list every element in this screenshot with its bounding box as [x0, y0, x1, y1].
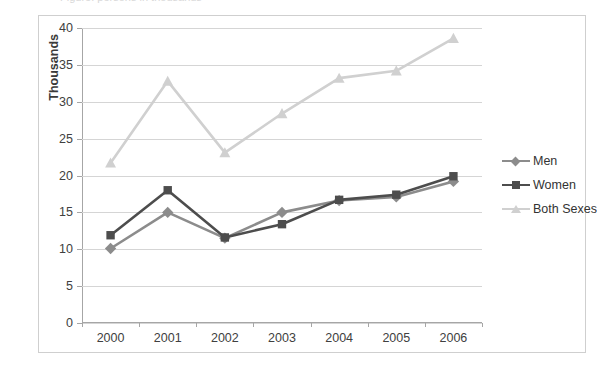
- y-axis-tick-label: 10: [59, 242, 73, 256]
- data-point-marker: [221, 233, 229, 241]
- legend-diamond-icon: [502, 154, 530, 168]
- legend-item-men[interactable]: Men: [502, 149, 580, 173]
- data-point-marker: [162, 76, 173, 86]
- plot-area: 0510152025303540 20002001200220032004200…: [82, 28, 482, 323]
- series-plot: [82, 28, 482, 323]
- x-axis-tick-label: 2003: [268, 331, 296, 345]
- x-axis-tick: [368, 323, 369, 327]
- chart-container: Thousands 0510152025303540 2000200120022…: [38, 15, 586, 353]
- x-axis-tick: [311, 323, 312, 327]
- legend-triangle-icon: [502, 202, 530, 216]
- x-axis-tick: [425, 323, 426, 327]
- legend-label: Women: [533, 178, 576, 192]
- y-axis-tick-label: 30: [59, 95, 73, 109]
- series-men: [105, 176, 459, 254]
- x-axis-tick-label: 2006: [440, 331, 468, 345]
- x-axis-tick-label: 2002: [211, 331, 239, 345]
- y-axis-tick-label: 35: [59, 58, 73, 72]
- legend-marker: [512, 181, 520, 189]
- y-axis-tick-label: 40: [59, 21, 73, 35]
- legend-marker: [511, 156, 521, 166]
- legend-square-icon: [502, 178, 530, 192]
- series-line: [111, 38, 454, 163]
- data-point-marker: [392, 190, 400, 198]
- y-axis-tick-label: 20: [59, 169, 73, 183]
- chart-legend: MenWomenBoth Sexes: [502, 149, 580, 221]
- data-point-marker: [277, 108, 288, 118]
- y-axis-tick-label: 25: [59, 132, 73, 146]
- gridline: [82, 323, 482, 324]
- x-axis-tick: [196, 323, 197, 327]
- y-axis-tick-label: 0: [66, 316, 73, 330]
- x-axis-tick: [139, 323, 140, 327]
- y-axis-tick-label: 15: [59, 205, 73, 219]
- legend-label: Men: [533, 154, 557, 168]
- cropped-top-caption: Figure: persons in thousands: [0, 0, 593, 14]
- data-point-marker: [278, 220, 286, 228]
- legend-marker: [511, 205, 521, 213]
- data-point-marker: [448, 33, 459, 43]
- x-axis-tick-label: 2001: [154, 331, 182, 345]
- data-point-marker: [449, 172, 457, 180]
- x-axis-tick-label: 2004: [325, 331, 353, 345]
- data-point-marker: [276, 207, 287, 218]
- x-axis-tick: [82, 323, 83, 327]
- series-both-sexes: [105, 33, 459, 168]
- data-point-marker: [164, 186, 172, 194]
- legend-label: Both Sexes: [533, 202, 597, 216]
- legend-item-women[interactable]: Women: [502, 173, 580, 197]
- data-point-marker: [335, 196, 343, 204]
- data-point-marker: [106, 231, 114, 239]
- legend-item-both-sexes[interactable]: Both Sexes: [502, 197, 580, 221]
- x-axis-tick: [482, 323, 483, 327]
- cropped-caption-text: Figure: persons in thousands: [60, 0, 202, 3]
- x-axis-tick: [253, 323, 254, 327]
- x-axis-tick-label: 2000: [97, 331, 125, 345]
- y-axis-tick-label: 5: [66, 279, 73, 293]
- x-axis-tick-label: 2005: [382, 331, 410, 345]
